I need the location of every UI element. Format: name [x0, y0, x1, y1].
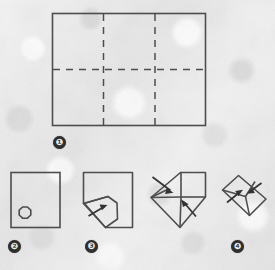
panel-3-flap-crease	[84, 197, 108, 204]
panel-1-sheet-outline	[53, 14, 206, 126]
panel-3-folded-flap	[84, 197, 118, 228]
panel-2-sheet-outline	[11, 173, 60, 228]
step-label-4: ❹	[231, 240, 244, 253]
step-label-3: ❸	[85, 240, 98, 253]
panel-5-group	[223, 176, 267, 216]
step-label-2: ❷	[8, 240, 21, 253]
panel-4-fold-arrow-lower-right	[181, 199, 196, 216]
panel-3-sheet-outline	[84, 173, 133, 228]
panel-4-crease-to-bottom-point	[180, 197, 181, 228]
figure-page: ❶ ❷ ❸ ❹	[0, 0, 275, 270]
panel-1-group	[53, 14, 206, 126]
panel-4-envelope-outline	[151, 173, 206, 228]
panel-3-group	[84, 173, 133, 228]
step-label-1: ❶	[53, 136, 66, 149]
panel-4-group	[151, 173, 206, 228]
panel-4-crease-upper-left	[151, 197, 181, 198]
panel-2-group	[11, 173, 60, 228]
panel-2-octagon-marker	[19, 207, 31, 218]
origami-diagram-svg	[0, 0, 275, 270]
